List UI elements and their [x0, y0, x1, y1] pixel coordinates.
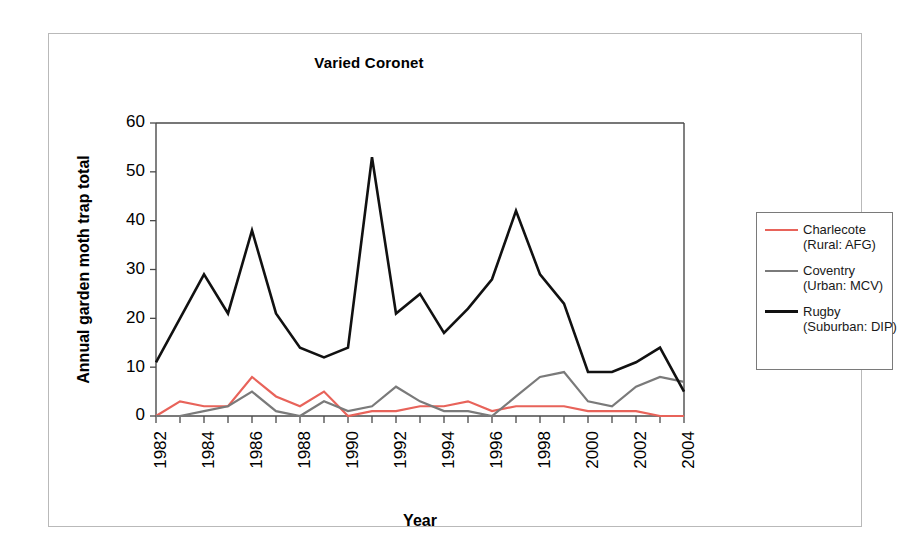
legend-label-rugby: Rugby: [803, 304, 841, 319]
svg-text:Year: Year: [403, 512, 437, 528]
svg-text:1982: 1982: [151, 431, 170, 469]
legend-entry-rugby: Rugby (Suburban: DIP): [765, 304, 884, 334]
line-chart-plot: 0102030405060198219841986198819901992199…: [49, 34, 863, 528]
svg-text:2004: 2004: [679, 431, 698, 469]
legend-label-charlecote: Charlecote: [803, 222, 866, 237]
svg-text:2000: 2000: [583, 431, 602, 469]
legend-sublabel-rugby: (Suburban: DIP): [803, 319, 884, 334]
legend-entry-charlecote: Charlecote (Rural: AFG): [765, 222, 884, 252]
svg-text:40: 40: [126, 210, 145, 229]
legend-sublabel-charlecote: (Rural: AFG): [803, 237, 884, 252]
svg-text:10: 10: [126, 357, 145, 376]
svg-text:2002: 2002: [631, 431, 650, 469]
svg-text:1992: 1992: [391, 431, 410, 469]
legend-sublabel-coventry: (Urban: MCV): [803, 278, 884, 293]
svg-text:30: 30: [126, 259, 145, 278]
svg-text:1994: 1994: [439, 431, 458, 469]
svg-text:1990: 1990: [343, 431, 362, 469]
svg-text:1996: 1996: [487, 431, 506, 469]
svg-text:1998: 1998: [535, 431, 554, 469]
legend-label-coventry: Coventry: [803, 263, 855, 278]
svg-text:1986: 1986: [247, 431, 266, 469]
chart-legend: Charlecote (Rural: AFG) Coventry (Urban:…: [756, 212, 893, 370]
svg-text:50: 50: [126, 161, 145, 180]
legend-entry-coventry: Coventry (Urban: MCV): [765, 263, 884, 293]
chart-axes: [150, 123, 684, 423]
svg-text:Annual garden moth trap total: Annual garden moth trap total: [75, 155, 92, 383]
svg-text:1984: 1984: [199, 431, 218, 469]
legend-swatch-coventry: [765, 270, 798, 272]
chart-series-group: [156, 157, 684, 416]
svg-text:60: 60: [126, 112, 145, 131]
svg-text:1988: 1988: [295, 431, 314, 469]
svg-text:0: 0: [136, 405, 145, 424]
legend-swatch-charlecote: [765, 229, 798, 231]
legend-swatch-rugby: [765, 310, 798, 313]
figure-frame: Varied Coronet 0102030405060198219841986…: [48, 33, 862, 527]
chart-axis-labels: 0102030405060198219841986198819901992199…: [75, 112, 698, 528]
svg-text:20: 20: [126, 308, 145, 327]
